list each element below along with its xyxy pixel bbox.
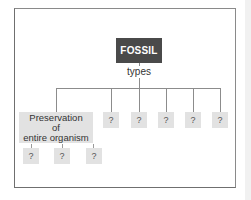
node-label-line-1: Preservation — [29, 113, 82, 123]
sub-node-unknown-1: ? — [23, 148, 39, 164]
node-label: ? — [190, 115, 195, 125]
node-unknown-type-4: ? — [158, 112, 174, 128]
diagram-frame — [14, 8, 236, 188]
sub-node-unknown-3: ? — [86, 148, 102, 164]
node-label: ? — [91, 151, 96, 161]
node-label: ? — [28, 151, 33, 161]
sub-node-unknown-2: ? — [54, 148, 70, 164]
node-unknown-type-6: ? — [212, 112, 228, 128]
node-label-line-2: of — [52, 123, 60, 133]
node-preservation-entire-organism: Preservation of entire organism — [19, 112, 93, 143]
page-edge-strip — [245, 0, 251, 200]
drop-3 — [139, 88, 140, 112]
root-node-fossil: FOSSIL — [116, 38, 162, 63]
node-unknown-type-3: ? — [131, 112, 147, 128]
node-label-line-3: entire organism — [23, 133, 88, 143]
root-node-label: FOSSIL — [120, 45, 157, 56]
drop-4 — [166, 88, 167, 112]
node-label: ? — [108, 115, 113, 125]
node-unknown-type-5: ? — [185, 112, 201, 128]
node-label: ? — [163, 115, 168, 125]
drop-5 — [193, 88, 194, 112]
drop-6 — [220, 88, 221, 112]
drop-2 — [111, 88, 112, 112]
node-unknown-type-2: ? — [103, 112, 119, 128]
node-label: ? — [136, 115, 141, 125]
edge-label-types: types — [124, 66, 154, 78]
drop-1 — [56, 88, 57, 112]
node-label: ? — [217, 115, 222, 125]
node-label: ? — [59, 151, 64, 161]
